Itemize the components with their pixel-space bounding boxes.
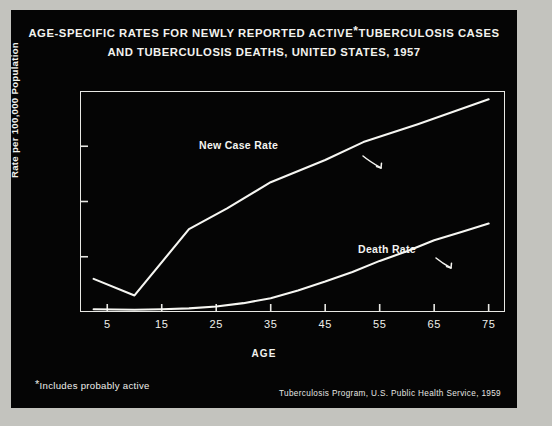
plot-area <box>80 91 505 312</box>
x-tick-label: 45 <box>319 318 332 330</box>
series-annotation-label: Death Rate <box>358 243 416 255</box>
x-tick-label: 65 <box>428 318 441 330</box>
x-tick-label: 25 <box>210 318 223 330</box>
x-tick-label: 35 <box>264 318 277 330</box>
photo-border: AGE-SPECIFIC RATES FOR NEWLY REPORTED AC… <box>0 0 552 426</box>
chart-title: AGE-SPECIFIC RATES FOR NEWLY REPORTED AC… <box>11 24 517 62</box>
title-line-1-cont: TUBERCULOSIS CASES <box>359 27 500 39</box>
x-tick-label: 55 <box>373 318 386 330</box>
x-tick-label: 75 <box>482 318 495 330</box>
title-line-1: AGE-SPECIFIC RATES FOR NEWLY REPORTED AC… <box>28 27 353 39</box>
footnote-text: Includes probably active <box>40 380 150 391</box>
source-credit: Tuberculosis Program, U.S. Public Health… <box>279 389 501 398</box>
chart-svg <box>80 91 505 312</box>
x-tick-label: 15 <box>155 318 168 330</box>
x-tick-label: 5 <box>104 318 111 330</box>
y-axis-label: Rate per 100,000 Population <box>11 42 20 178</box>
series-annotation-label: New Case Rate <box>199 139 278 151</box>
title-line-2: AND TUBERCULOSIS DEATHS, UNITED STATES, … <box>11 43 517 62</box>
x-axis-label: AGE <box>11 348 517 359</box>
chart-panel: AGE-SPECIFIC RATES FOR NEWLY REPORTED AC… <box>11 10 517 408</box>
footnote: *Includes probably active <box>35 380 150 391</box>
